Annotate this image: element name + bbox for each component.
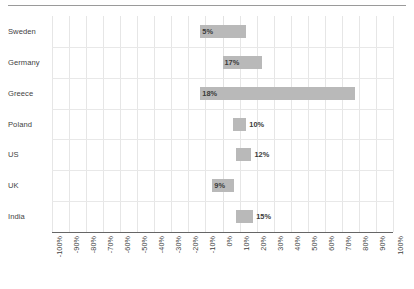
bar-greece[interactable] bbox=[200, 87, 355, 100]
category-label-germany: Germany bbox=[8, 58, 52, 67]
xtick-label-60: 60% bbox=[328, 236, 336, 251]
bar-value-label-india: 15% bbox=[254, 210, 271, 223]
chart-container: 5%17%18%10%12%9%15% SwedenGermanyGreeceP… bbox=[0, 0, 414, 289]
plot-area: 5%17%18%10%12%9%15% bbox=[52, 16, 393, 232]
category-label-india: India bbox=[8, 212, 52, 221]
category-label-us: US bbox=[8, 150, 52, 159]
bar-value-label-greece: 18% bbox=[200, 87, 217, 100]
xtick-label--70: -70% bbox=[107, 236, 115, 253]
category-label-uk: UK bbox=[8, 181, 52, 190]
xtick-label--40: -40% bbox=[158, 236, 166, 253]
xtick-label--50: -50% bbox=[141, 236, 149, 253]
gridline-100 bbox=[393, 16, 394, 232]
bar-value-label-sweden: 5% bbox=[200, 25, 213, 38]
xtick-label--90: -90% bbox=[73, 236, 81, 253]
xtick-label-90: 90% bbox=[379, 236, 387, 251]
xtick-label-40: 40% bbox=[294, 236, 302, 251]
xtick-label--30: -30% bbox=[175, 236, 183, 253]
top-divider-rule bbox=[8, 5, 406, 6]
xtick-label-0: 0% bbox=[226, 236, 234, 247]
bar-india[interactable] bbox=[236, 210, 253, 223]
xtick-label--10: -10% bbox=[209, 236, 217, 253]
bar-poland[interactable] bbox=[233, 118, 247, 131]
xtick-label-50: 50% bbox=[311, 236, 319, 251]
category-label-sweden: Sweden bbox=[8, 27, 52, 36]
xtick-label--60: -60% bbox=[124, 236, 132, 253]
xtick-label-80: 80% bbox=[362, 236, 370, 251]
bar-us[interactable] bbox=[236, 148, 251, 161]
xtick-label--20: -20% bbox=[192, 236, 200, 253]
bar-value-label-uk: 9% bbox=[212, 179, 225, 192]
x-axis-line bbox=[52, 232, 393, 233]
xtick-label-10: 10% bbox=[243, 236, 251, 251]
category-label-greece: Greece bbox=[8, 89, 52, 98]
bars-layer: 5%17%18%10%12%9%15% bbox=[52, 16, 393, 232]
xtick-label-70: 70% bbox=[345, 236, 353, 251]
xtick-label-100: 100% bbox=[397, 236, 405, 255]
category-label-poland: Poland bbox=[8, 120, 52, 129]
xtick-label--100: -100% bbox=[56, 236, 64, 257]
xtick-label-30: 30% bbox=[277, 236, 285, 251]
bar-value-label-germany: 17% bbox=[223, 56, 240, 69]
xtick-label--80: -80% bbox=[90, 236, 98, 253]
bar-value-label-us: 12% bbox=[252, 148, 269, 161]
xtick-label-20: 20% bbox=[260, 236, 268, 251]
bar-value-label-poland: 10% bbox=[247, 118, 264, 131]
